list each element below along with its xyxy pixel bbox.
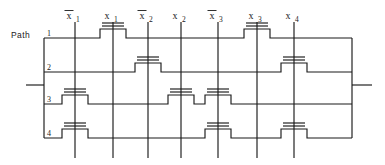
- row-number-path-4: 4: [47, 129, 51, 138]
- column-variable-x2: x: [173, 10, 178, 21]
- path-caption: Path: [11, 30, 30, 40]
- path-wire-path-2: [44, 63, 352, 72]
- column-label-x4: x4: [286, 10, 300, 24]
- column-variable-x4: x: [286, 10, 291, 21]
- column-subscript-x4: 4: [295, 15, 299, 24]
- column-label-x1: x1: [105, 10, 119, 24]
- path-wire-path-1: [44, 29, 352, 38]
- column-subscript-x3: 3: [258, 15, 262, 24]
- column-label-xb2: x2: [138, 10, 154, 24]
- column-subscript-xb2: 2: [149, 15, 153, 24]
- column-label-x3: x3: [249, 10, 263, 24]
- row-number-path-2: 2: [47, 63, 51, 72]
- column-label-xb3: x3: [208, 10, 224, 24]
- column-subscript-x2: 2: [182, 15, 186, 24]
- column-subscript-xb1: 1: [76, 15, 80, 24]
- column-label-x2: x2: [173, 10, 187, 24]
- column-subscript-xb3: 3: [219, 15, 223, 24]
- circuit-canvas: x1x1x2x2x3x3x41234Path: [0, 0, 385, 165]
- column-variable-xb2: x: [140, 10, 145, 21]
- column-variable-xb3: x: [210, 10, 215, 21]
- column-variable-x3: x: [249, 10, 254, 21]
- path-wire-path-4: [44, 129, 352, 138]
- row-number-path-1: 1: [47, 29, 51, 38]
- path-wire-path-3: [44, 95, 352, 104]
- column-label-xb1: x1: [65, 10, 81, 24]
- pass-transistor-network-diagram: x1x1x2x2x3x3x41234Path: [0, 0, 385, 165]
- column-variable-xb1: x: [67, 10, 72, 21]
- column-subscript-x1: 1: [114, 15, 118, 24]
- row-number-path-3: 3: [47, 95, 51, 104]
- column-variable-x1: x: [105, 10, 110, 21]
